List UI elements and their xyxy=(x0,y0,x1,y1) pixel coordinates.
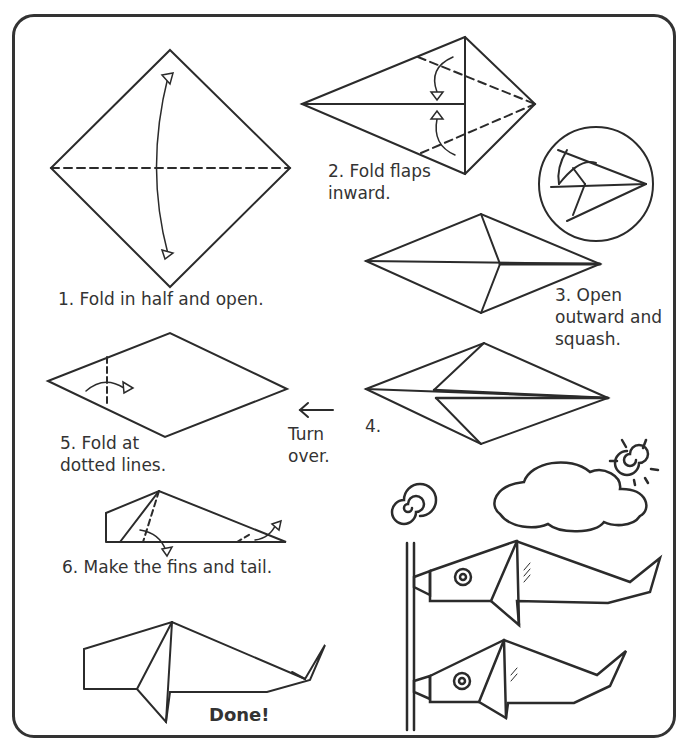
step-1-label: 1. Fold in half and open. xyxy=(58,288,264,310)
arrow-right-icon xyxy=(123,382,133,393)
square-diamond-fold xyxy=(51,50,290,287)
step-2-label: 2. Fold flaps inward. xyxy=(328,160,431,204)
diagram-canvas xyxy=(0,0,693,755)
step-5-label: 5. Fold at dotted lines. xyxy=(60,432,166,476)
arrow-down-icon xyxy=(431,92,443,100)
kite-flaps xyxy=(302,37,535,174)
rhombus-fold-lines xyxy=(48,333,287,437)
arrow-up-icon xyxy=(162,73,173,84)
finished-whale xyxy=(84,622,325,722)
whale-fins-tail xyxy=(106,491,286,556)
detail-circle-squash xyxy=(539,127,653,241)
step-3-label: 3. Open outward and squash. xyxy=(555,284,662,350)
done-label: Done! xyxy=(209,704,270,725)
arrow-down-icon xyxy=(162,250,173,259)
arrow-left-icon xyxy=(300,403,333,417)
turn-over-label: Turn over. xyxy=(288,423,330,467)
fish-streamers-pole xyxy=(392,484,660,730)
step-6-label: 6. Make the fins and tail. xyxy=(62,556,272,578)
kite-step-4 xyxy=(366,343,608,444)
cloud-icon xyxy=(494,462,646,531)
arrow-up-icon xyxy=(431,111,443,119)
step-4-label: 4. xyxy=(365,415,381,437)
